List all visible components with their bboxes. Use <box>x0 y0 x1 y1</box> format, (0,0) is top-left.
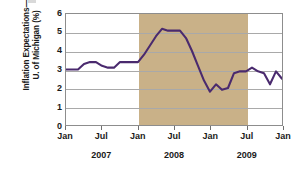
series-line-inflation-expectations <box>66 14 282 125</box>
y-tick-label: 4 <box>48 46 62 55</box>
plot-area <box>65 13 283 126</box>
x-tick-mark <box>65 126 66 130</box>
x-tick-label: Jan <box>190 131 230 141</box>
y-tick-label: 1 <box>48 103 62 112</box>
x-axis-year-label: 2008 <box>152 150 196 160</box>
x-axis-year-label: 2007 <box>79 150 123 160</box>
y-tick-label: 2 <box>48 84 62 93</box>
x-tick-mark <box>247 126 248 130</box>
x-tick-mark <box>138 126 139 130</box>
x-tick-label: Jan <box>263 131 300 141</box>
x-tick-mark <box>283 126 284 130</box>
x-tick-label: Jan <box>118 131 158 141</box>
x-tick-label: Jan <box>45 131 85 141</box>
x-tick-label: Jul <box>154 131 194 141</box>
y-tick-label: 5 <box>48 27 62 36</box>
y-tick-label: 6 <box>48 9 62 18</box>
y-axis-label: Inflation Expectations— U. of Michigan (… <box>22 0 42 110</box>
x-tick-mark <box>101 126 102 130</box>
x-tick-label: Jul <box>227 131 267 141</box>
y-tick-label: 3 <box>48 65 62 74</box>
chart-figure: Inflation Expectations— U. of Michigan (… <box>0 0 300 195</box>
x-tick-label: Jul <box>81 131 121 141</box>
x-tick-mark <box>174 126 175 130</box>
x-axis-year-label: 2009 <box>225 150 269 160</box>
x-tick-mark <box>210 126 211 130</box>
y-tick-label: 0 <box>48 122 62 131</box>
